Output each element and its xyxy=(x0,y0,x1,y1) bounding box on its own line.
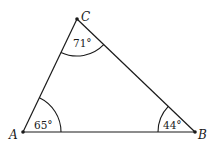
angle-label-b: 44° xyxy=(163,119,182,131)
angle-label-a: 65° xyxy=(34,119,53,131)
vertex-label-a: A xyxy=(8,128,18,142)
triangle-diagram: A B C 65° 44° 71° xyxy=(0,0,215,150)
vertex-label-b: B xyxy=(197,128,207,142)
side-bc xyxy=(77,19,195,132)
vertex-points xyxy=(21,17,197,134)
vertex-label-c: C xyxy=(81,10,90,24)
vertex-dot-a xyxy=(21,130,25,134)
angle-label-c: 71° xyxy=(73,37,92,49)
vertex-dot-c xyxy=(75,17,79,21)
side-ac xyxy=(23,19,77,132)
triangle-sides xyxy=(23,19,195,132)
vertex-dot-b xyxy=(193,130,197,134)
